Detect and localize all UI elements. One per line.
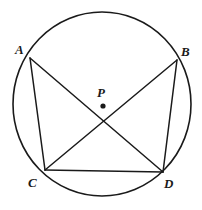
center-point-dot (100, 103, 105, 108)
vertex-label-a: A (15, 43, 24, 56)
chord-AC-segment (30, 58, 45, 170)
diagonal-AD-segment (30, 58, 163, 172)
geometry-figure: A B C D P (0, 0, 202, 210)
diagonal-BC-segment (45, 60, 177, 170)
chord-CD-segment (45, 170, 163, 172)
vertex-label-c: C (28, 176, 37, 189)
center-point-label-p: P (97, 86, 105, 99)
vertex-label-d: D (164, 177, 173, 190)
chord-BD-segment (163, 60, 177, 172)
vertex-label-b: B (181, 45, 190, 58)
